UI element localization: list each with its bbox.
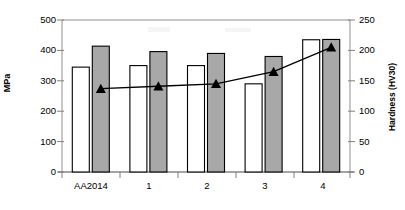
bar-gray-2 (208, 53, 225, 172)
bar-gray-4 (323, 39, 340, 172)
plot-area (0, 0, 405, 210)
bar-white-4 (303, 40, 320, 172)
bar-gray-1 (150, 52, 167, 172)
bar-white-3 (245, 84, 262, 172)
chart-figure: MPa Hardness (HV30) 500 400 300 200 100 … (0, 0, 405, 210)
bar-white-2 (188, 66, 205, 172)
y-axis-ticks-left (57, 20, 64, 172)
y-axis-ticks-right (348, 20, 355, 172)
x-axis-ticks (62, 172, 350, 178)
bar-white-1 (130, 66, 147, 172)
bar-gray-0 (92, 46, 109, 172)
bar-white-0 (72, 67, 89, 172)
